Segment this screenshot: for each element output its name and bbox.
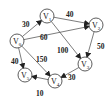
- edge-v2-v3: [87, 32, 94, 58]
- graph-diagram: V0V1V2V3V4V5 30604010050150403010: [0, 0, 112, 101]
- arrow-icon: [87, 32, 94, 58]
- edge-weight-label: 30: [22, 20, 30, 29]
- edge-v0-v5: [19, 48, 24, 68]
- node-v1: V1: [40, 9, 54, 23]
- node-v5: V5: [18, 68, 32, 82]
- edge-weight-label: 40: [66, 10, 74, 19]
- edge-weight-label: 30: [68, 73, 76, 82]
- edge-weight-label: 40: [11, 57, 19, 66]
- node-v3: V3: [78, 57, 92, 71]
- arrow-icon: [32, 76, 48, 79]
- edge-weight-label: 100: [57, 46, 69, 55]
- graph-canvas: V0V1V2V3V4V5 30604010050150403010: [0, 0, 112, 101]
- edge-weight-label: 60: [40, 33, 48, 42]
- edge-v4-v5: [32, 76, 48, 79]
- edge-weight-label: 150: [36, 55, 48, 64]
- edge-weight-label: 50: [97, 42, 105, 51]
- node-v0: V0: [10, 34, 24, 48]
- edge-weight-label: 10: [36, 89, 44, 98]
- node-v4: V4: [48, 74, 62, 88]
- arrow-icon: [19, 48, 24, 68]
- node-v2: V2: [89, 18, 103, 32]
